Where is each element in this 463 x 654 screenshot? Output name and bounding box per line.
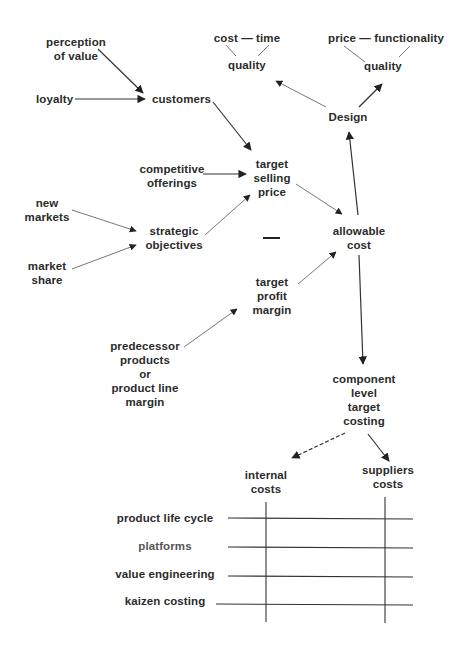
label-line: profit bbox=[250, 289, 294, 303]
matrix-row-kaizen-costing: kaizen costing bbox=[112, 594, 218, 608]
arrow-marketshare-to-strategic bbox=[72, 245, 136, 269]
triangle-left-quality: quality bbox=[222, 58, 272, 72]
arrow-customers-to-price bbox=[213, 102, 251, 150]
label-line: cost bbox=[327, 238, 391, 252]
triangle-left-line-2 bbox=[258, 45, 269, 56]
label-line: or bbox=[100, 367, 190, 381]
label-line: suppliers bbox=[360, 463, 416, 477]
matrix-row-platforms: platforms bbox=[112, 539, 218, 553]
node-new-markets: new markets bbox=[22, 196, 72, 224]
node-target-selling-price: target selling price bbox=[250, 157, 294, 199]
triangle-left-line-1 bbox=[226, 45, 236, 56]
arrow-predecessor-to-profit bbox=[184, 309, 237, 347]
label-line: kaizen costing bbox=[112, 594, 218, 608]
node-allowable-cost: allowable cost bbox=[327, 224, 391, 252]
label-line: target bbox=[250, 157, 294, 171]
label-line: product line bbox=[100, 381, 190, 395]
node-strategic-objectives: strategic objectives bbox=[142, 224, 206, 252]
label-line: value engineering bbox=[110, 567, 220, 581]
label-line: of value bbox=[36, 49, 116, 63]
label-line: offerings bbox=[138, 176, 206, 190]
node-design: Design bbox=[326, 110, 370, 124]
matrix-row-value-engineering: value engineering bbox=[110, 567, 220, 581]
label-line: product life cycle bbox=[112, 511, 218, 525]
label-line: cost — time bbox=[212, 31, 282, 45]
arrow-component-to-internal bbox=[292, 433, 345, 458]
label-line: component bbox=[324, 372, 404, 386]
node-component-level-target-costing: component level target costing bbox=[324, 372, 404, 428]
arrow-allowable-to-component bbox=[359, 255, 363, 364]
label-line: new bbox=[22, 196, 72, 210]
arrow-strategic-to-price bbox=[205, 195, 250, 235]
label-line: margin bbox=[100, 395, 190, 409]
matrix-row-product-life-cycle: product life cycle bbox=[112, 511, 218, 525]
arrow-allowable-to-design bbox=[349, 132, 358, 215]
label-line: selling bbox=[250, 171, 294, 185]
label-line: price — functionality bbox=[326, 31, 446, 45]
arrow-newmarkets-to-strategic bbox=[72, 210, 136, 231]
label-line: markets bbox=[22, 210, 72, 224]
label-line: platforms bbox=[112, 539, 218, 553]
label-line: costs bbox=[360, 477, 416, 491]
node-suppliers-costs: suppliers costs bbox=[360, 463, 416, 491]
triangle-right-quality: quality bbox=[358, 59, 408, 73]
node-perception-of-value: perception of value bbox=[36, 35, 116, 63]
label-line: target bbox=[250, 275, 294, 289]
node-target-profit-margin: target profit margin bbox=[250, 275, 294, 317]
label-line: costing bbox=[324, 414, 404, 428]
arrow-design-to-quality-right bbox=[359, 84, 382, 107]
matrix-row-line-4 bbox=[216, 604, 413, 605]
label-line: target bbox=[324, 400, 404, 414]
label-line: costs bbox=[241, 482, 291, 496]
node-internal-costs: internal costs bbox=[241, 468, 291, 496]
label-line: products bbox=[100, 353, 190, 367]
label-line: perception bbox=[36, 35, 116, 49]
label-line: strategic bbox=[142, 224, 206, 238]
arrow-design-to-quality-left bbox=[276, 81, 326, 107]
node-loyalty: loyalty bbox=[36, 92, 73, 106]
label-line: competitive bbox=[138, 162, 206, 176]
arrow-profit-to-allowable bbox=[298, 252, 336, 284]
node-competitive-offerings: competitive offerings bbox=[138, 162, 206, 190]
label-line: customers bbox=[152, 92, 211, 106]
label-line: margin bbox=[250, 303, 294, 317]
node-predecessor-products: predecessor products or product line mar… bbox=[100, 339, 190, 409]
arrow-component-to-suppliers bbox=[368, 434, 389, 461]
label-line: loyalty bbox=[36, 92, 73, 106]
label-line: market bbox=[22, 259, 72, 273]
label-line: level bbox=[324, 386, 404, 400]
label-line: quality bbox=[222, 58, 272, 72]
triangle-left-top: cost — time bbox=[212, 31, 282, 45]
label-line: predecessor bbox=[100, 339, 190, 353]
label-line: allowable bbox=[327, 224, 391, 238]
label-line: internal bbox=[241, 468, 291, 482]
label-line: price bbox=[250, 185, 294, 199]
node-market-share: market share bbox=[22, 259, 72, 287]
triangle-right-line-2 bbox=[399, 46, 410, 57]
label-line: quality bbox=[358, 59, 408, 73]
arrow-price-to-allowable bbox=[296, 184, 342, 214]
label-line: objectives bbox=[142, 238, 206, 252]
label-line: Design bbox=[326, 110, 370, 124]
triangle-right-top: price — functionality bbox=[326, 31, 446, 45]
node-customers: customers bbox=[152, 92, 211, 106]
label-line: share bbox=[22, 273, 72, 287]
target-costing-diagram: perception of value loyalty customers co… bbox=[0, 0, 463, 654]
